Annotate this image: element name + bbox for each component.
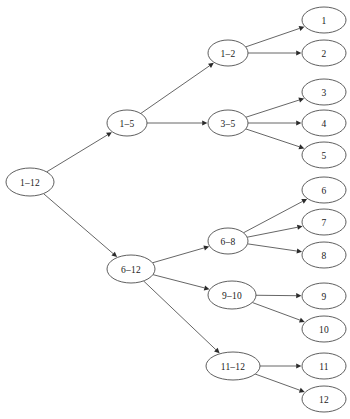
- arrowhead-icon: [208, 63, 214, 68]
- node-n3_5[interactable]: 3–5: [208, 110, 248, 136]
- node-label-l8: 8: [322, 251, 327, 261]
- node-label-n1_2: 1–2: [221, 49, 236, 59]
- node-l7[interactable]: 7: [302, 209, 346, 235]
- node-label-n3_5: 3–5: [221, 119, 236, 129]
- edge-n6_12-to-n6_8: [153, 248, 205, 263]
- node-l10[interactable]: 10: [302, 316, 346, 342]
- node-label-l7: 7: [322, 218, 327, 228]
- edge-n3_5-to-l5: [246, 129, 300, 147]
- node-n6_12[interactable]: 6–12: [107, 255, 155, 283]
- tree-diagram-canvas: 1–121–56–121–23–56–89–1011–1212345678910…: [0, 0, 350, 419]
- arrowhead-icon: [296, 363, 301, 368]
- node-label-l3: 3: [322, 88, 327, 98]
- node-n9_10[interactable]: 9–10: [208, 281, 256, 309]
- node-label-l11: 11: [319, 362, 329, 372]
- arrowhead-icon: [297, 225, 303, 230]
- arrowhead-icon: [296, 120, 301, 125]
- node-label-l5: 5: [322, 151, 327, 161]
- node-label-l10: 10: [319, 325, 329, 335]
- node-l2[interactable]: 2: [302, 40, 346, 66]
- node-l11[interactable]: 11: [302, 353, 346, 379]
- arrowhead-icon: [296, 293, 301, 298]
- arrowhead-icon: [298, 98, 304, 103]
- edges-layer: [43, 26, 307, 393]
- node-l3[interactable]: 3: [302, 79, 346, 105]
- nodes-layer: 1–121–56–121–23–56–89–1011–1212345678910…: [6, 7, 346, 412]
- arrowhead-icon: [299, 144, 305, 149]
- arrowhead-icon: [204, 285, 210, 290]
- node-n6_8[interactable]: 6–8: [208, 228, 248, 254]
- node-l8[interactable]: 8: [302, 242, 346, 268]
- arrowhead-icon: [297, 248, 303, 253]
- edge-n1_2-to-l1: [246, 28, 300, 46]
- edge-n11_12-to-l12: [255, 374, 300, 390]
- node-label-n9_10: 9–10: [222, 291, 242, 301]
- node-n1_2[interactable]: 1–2: [208, 40, 248, 66]
- node-label-l1: 1: [322, 16, 327, 26]
- node-l1[interactable]: 1: [302, 7, 346, 33]
- node-label-l6: 6: [322, 186, 327, 196]
- node-label-l2: 2: [322, 49, 327, 59]
- edge-n6_8-to-l7: [247, 227, 297, 237]
- node-label-n1_12: 1–12: [20, 178, 40, 188]
- node-label-n1_5: 1–5: [120, 119, 135, 129]
- node-label-n11_12: 11–12: [221, 362, 245, 372]
- node-n11_12[interactable]: 11–12: [206, 352, 260, 380]
- node-label-l9: 9: [322, 292, 327, 302]
- edge-n1_12-to-n6_12: [43, 194, 113, 254]
- node-l12[interactable]: 12: [302, 386, 346, 412]
- edge-n1_5-to-n1_2: [141, 66, 210, 114]
- edge-n6_8-to-l8: [248, 244, 297, 251]
- node-label-n6_12: 6–12: [121, 265, 141, 275]
- node-l6[interactable]: 6: [302, 177, 346, 203]
- node-n1_5[interactable]: 1–5: [107, 110, 147, 136]
- node-label-l4: 4: [322, 119, 327, 129]
- arrowhead-icon: [299, 26, 305, 31]
- edge-n1_12-to-n1_5: [47, 135, 108, 172]
- node-l9[interactable]: 9: [302, 283, 346, 309]
- arrowhead-icon: [203, 245, 209, 250]
- tree-diagram-svg: 1–121–56–121–23–56–89–1011–1212345678910…: [0, 0, 350, 419]
- edge-n6_12-to-n11_12: [144, 281, 216, 350]
- edge-n3_5-to-l3: [246, 100, 299, 117]
- arrowhead-icon: [106, 132, 112, 137]
- edge-n6_12-to-n9_10: [153, 275, 204, 288]
- node-n1_12[interactable]: 1–12: [6, 168, 54, 196]
- arrowhead-icon: [296, 50, 301, 55]
- node-l5[interactable]: 5: [302, 142, 346, 168]
- edge-n9_10-to-l10: [252, 302, 300, 320]
- node-label-n6_8: 6–8: [221, 237, 236, 247]
- arrowhead-icon: [202, 120, 207, 125]
- node-l4[interactable]: 4: [302, 110, 346, 136]
- node-label-l12: 12: [319, 395, 329, 405]
